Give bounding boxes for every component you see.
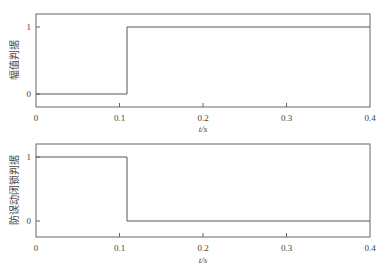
- y-axis-label: 防误动闭锁判据: [8, 155, 20, 225]
- ytick-label: 1: [27, 152, 32, 162]
- y-axis-label: 幅值判据: [8, 40, 20, 80]
- xtick-label: 0.1: [114, 243, 125, 253]
- xtick-label: 0: [34, 113, 39, 123]
- xtick-label: 0.3: [281, 113, 293, 123]
- xtick-label: 0.3: [281, 243, 293, 253]
- figure: 1 0 0 0.1 0.2 0.3 0.4 t/s 幅值判据 1 0 0 0.1…: [0, 0, 383, 271]
- xtick-label: 0.2: [197, 113, 208, 123]
- ytick-label: 0: [27, 216, 32, 226]
- xtick-label: 0.4: [364, 243, 376, 253]
- xtick-label: 0.4: [364, 113, 376, 123]
- xtick-label: 0.1: [114, 113, 125, 123]
- xtick-label: 0.2: [197, 243, 208, 253]
- ytick-label: 1: [27, 22, 32, 32]
- top-plot-frame: [36, 14, 370, 107]
- x-axis-label: t/s: [199, 124, 208, 134]
- x-axis-label: t/s: [199, 255, 208, 265]
- amplitude-criterion-line: [36, 27, 370, 94]
- ytick-label: 0: [27, 89, 32, 99]
- bottom-plot: 1 0 0 0.1 0.2 0.3 0.4 t/s 防误动闭锁判据: [8, 144, 376, 265]
- bottom-plot-frame: [36, 144, 370, 237]
- anti-maloperation-criterion-line: [36, 157, 370, 221]
- xtick-label: 0: [34, 243, 39, 253]
- top-plot: 1 0 0 0.1 0.2 0.3 0.4 t/s 幅值判据: [8, 14, 376, 134]
